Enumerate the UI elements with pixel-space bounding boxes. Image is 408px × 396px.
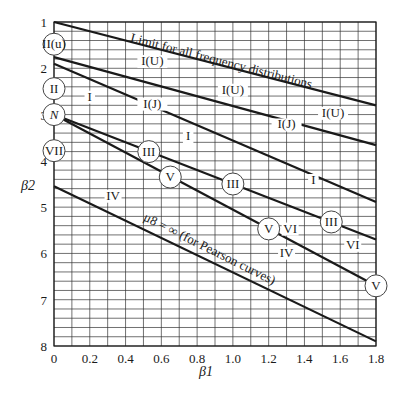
point-label: III: [226, 176, 239, 191]
x-axis-label: β1: [198, 364, 213, 379]
region-label: I: [88, 89, 92, 104]
x-tick-label: 0.6: [153, 351, 170, 366]
region-label: I(U): [322, 105, 344, 120]
point-label: V: [166, 169, 176, 184]
region-label: I(U): [141, 53, 163, 68]
region-label: IV: [106, 188, 120, 203]
region-label: IV: [280, 245, 294, 260]
y-axis-label: β2: [20, 178, 35, 193]
region-label: VI: [283, 221, 297, 236]
x-tick-label: 0.4: [117, 351, 134, 366]
x-tick-label: 1.2: [261, 351, 277, 366]
point-label: V: [264, 221, 274, 236]
x-tick-label: 1.4: [296, 351, 313, 366]
y-tick-label: 6: [41, 246, 48, 261]
pearson-beta-chart: 00.20.40.60.81.01.21.41.61.8 12345678 β1…: [0, 0, 408, 396]
point-label: III: [325, 214, 338, 229]
region-labels: I(U)I(U)I(U)I(J)I(J)IIIIVIVVIVI: [85, 53, 362, 260]
point-label: N: [49, 107, 60, 122]
y-tick-label: 2: [41, 61, 48, 76]
region-label: I: [186, 128, 190, 143]
region-label: I(J): [278, 116, 296, 131]
region-label: VI: [346, 237, 360, 252]
line-label: μ8 = ∞ (for Pearson curves): [142, 209, 279, 287]
y-axis-ticks: 12345678: [41, 15, 48, 354]
point-label: V: [371, 278, 381, 293]
point-label: II(u): [42, 36, 66, 51]
region-label: I(U): [222, 82, 244, 97]
x-tick-label: 1.6: [332, 351, 349, 366]
x-axis-ticks: 00.20.40.60.81.01.21.41.61.8: [51, 351, 384, 366]
region-label: I(J): [143, 96, 161, 111]
x-tick-label: 0: [51, 351, 58, 366]
point-label: III: [142, 144, 155, 159]
x-tick-label: 1.8: [368, 351, 384, 366]
point-label: VII: [45, 143, 63, 158]
x-tick-label: 0.2: [82, 351, 98, 366]
x-tick-label: 1.0: [225, 351, 241, 366]
y-tick-label: 1: [41, 15, 48, 30]
region-label: I: [311, 172, 315, 187]
y-tick-label: 8: [41, 339, 48, 354]
point-label: II: [50, 81, 59, 96]
y-tick-label: 5: [41, 200, 48, 215]
y-tick-label: 7: [41, 293, 48, 308]
